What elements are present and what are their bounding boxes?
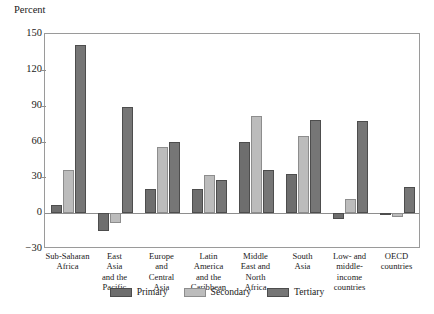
legend-swatch-icon — [267, 288, 289, 297]
bar-group — [145, 34, 181, 247]
legend-item-secondary: Secondary — [184, 287, 252, 297]
y-axis-tick-mark — [41, 177, 46, 178]
y-axis-tick-label: 150 — [8, 28, 42, 39]
bar-primary — [145, 189, 157, 213]
legend-label: Tertiary — [294, 287, 324, 297]
bar-primary — [333, 213, 345, 219]
bar-group — [98, 34, 134, 247]
bar-tertiary — [169, 142, 181, 214]
y-axis-tick-mark — [41, 142, 46, 143]
y-axis-tick-label: 60 — [8, 136, 42, 147]
bar-tertiary — [263, 170, 275, 213]
y-axis-tick-label: 0 — [8, 207, 42, 218]
legend-swatch-icon — [184, 288, 206, 297]
bar-tertiary — [357, 121, 369, 213]
bar-primary — [286, 174, 298, 213]
bar-primary — [239, 142, 251, 214]
legend-label: Secondary — [211, 287, 252, 297]
bar-secondary — [392, 213, 404, 217]
y-axis-tick-mark — [41, 106, 46, 107]
bar-tertiary — [75, 45, 87, 213]
legend-swatch-icon — [110, 288, 132, 297]
bar-secondary — [298, 136, 310, 214]
y-axis-title: Percent — [14, 4, 46, 16]
bar-secondary — [110, 213, 122, 223]
bar-group — [239, 34, 275, 247]
bar-secondary — [251, 116, 263, 213]
bar-primary — [192, 189, 204, 213]
legend-label: Primary — [137, 287, 168, 297]
bar-primary — [380, 213, 392, 215]
bar-tertiary — [216, 180, 228, 213]
bar-tertiary — [404, 187, 416, 213]
bar-primary — [51, 205, 63, 213]
plot-frame — [44, 33, 420, 248]
y-axis-tick-label: 90 — [8, 100, 42, 111]
y-axis-tick-mark — [41, 70, 46, 71]
bar-tertiary — [122, 107, 134, 213]
bar-group — [51, 34, 87, 247]
bar-secondary — [63, 170, 75, 213]
bar-group — [380, 34, 416, 247]
bar-secondary — [157, 147, 169, 213]
chart-legend: PrimarySecondaryTertiary — [0, 287, 434, 297]
plot-area — [45, 34, 419, 247]
bar-tertiary — [310, 120, 322, 213]
legend-item-tertiary: Tertiary — [267, 287, 324, 297]
bar-secondary — [345, 199, 357, 213]
y-axis-tick-label: 120 — [8, 64, 42, 75]
x-axis-category-label: OECDcountries — [367, 251, 426, 272]
bar-group — [286, 34, 322, 247]
bar-group — [192, 34, 228, 247]
y-axis-tick-label: −30 — [8, 243, 42, 254]
bar-secondary — [204, 175, 216, 213]
y-axis-tick-label: 30 — [8, 171, 42, 182]
bar-primary — [98, 213, 110, 231]
bar-group — [333, 34, 369, 247]
legend-item-primary: Primary — [110, 287, 168, 297]
